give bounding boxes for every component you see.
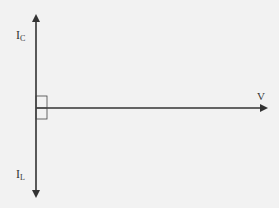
phasor-diagram (0, 0, 279, 208)
il-label-sub: L (20, 173, 25, 182)
ic-label: IC (16, 29, 25, 43)
il-label: IL (16, 168, 25, 182)
ic-label-sub: C (20, 34, 25, 43)
v-label: V (257, 91, 265, 102)
